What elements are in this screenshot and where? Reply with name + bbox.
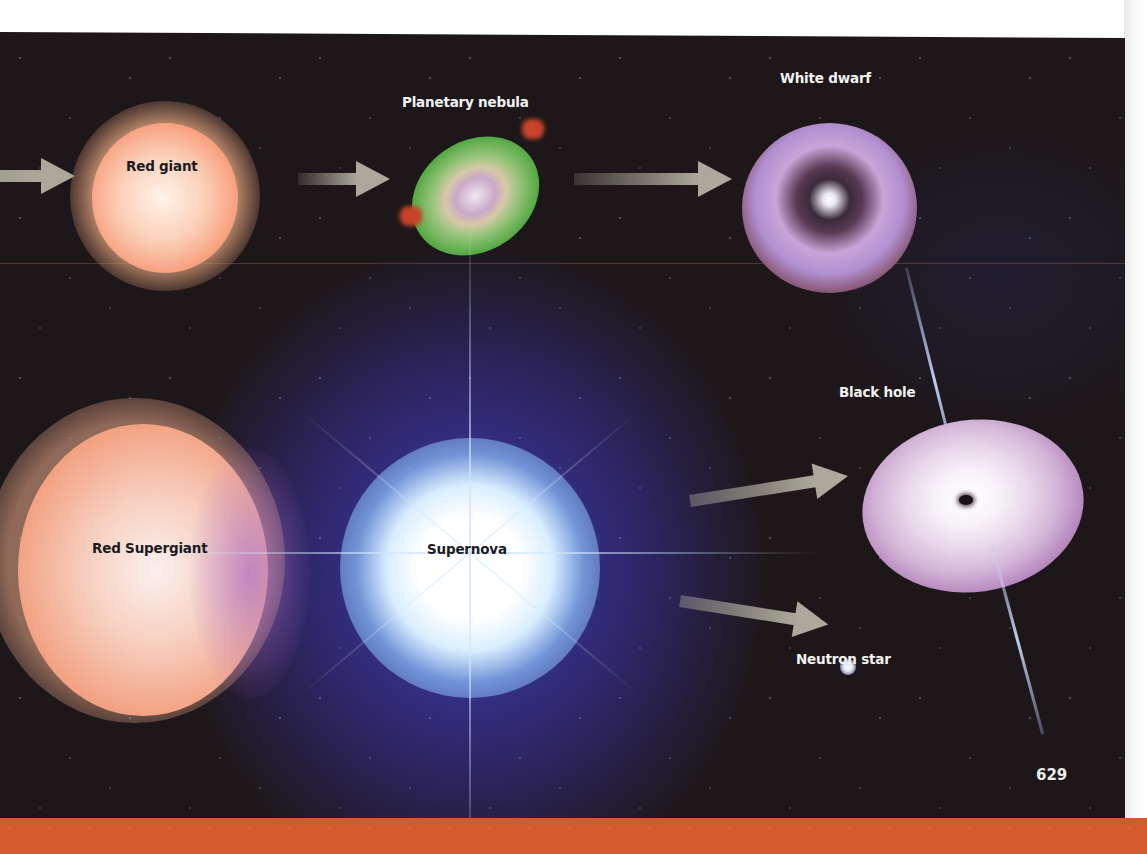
label-white-dwarf: White dwarf xyxy=(780,70,871,86)
nebula-lobe-top xyxy=(522,119,544,139)
white-dwarf-remnant xyxy=(742,123,917,293)
page-right-margin xyxy=(1124,0,1147,820)
supergiant-supernova-blend xyxy=(190,448,310,698)
bottom-color-band xyxy=(0,818,1147,854)
arrow-into-red-giant xyxy=(0,165,75,187)
label-planetary-nebula: Planetary nebula xyxy=(402,94,529,110)
nebula-lobe-bottom xyxy=(400,206,422,226)
label-black-hole: Black hole xyxy=(839,384,915,400)
label-neutron-star: Neutron star xyxy=(796,651,891,667)
label-supernova: Supernova xyxy=(427,541,507,557)
arrow-nebula-to-white-dwarf xyxy=(574,168,732,190)
label-red-supergiant: Red Supergiant xyxy=(92,540,207,556)
arrow-red-giant-to-nebula xyxy=(298,168,390,190)
page-number: 629 xyxy=(1036,766,1067,784)
red-giant-star xyxy=(92,123,238,273)
black-hole-core xyxy=(959,495,973,505)
space-illustration xyxy=(0,28,1125,820)
label-red-giant: Red giant xyxy=(126,158,198,174)
supernova-ray-vertical xyxy=(469,208,471,820)
page-top-margin xyxy=(0,0,1147,34)
